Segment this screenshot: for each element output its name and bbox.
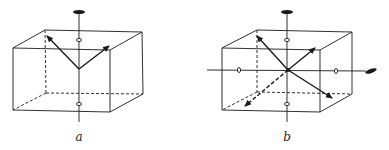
vertical-axis-b — [281, 10, 293, 122]
axis-oval-icon — [334, 69, 337, 74]
axis-oval-icon — [285, 102, 290, 105]
axis-oval-icon — [77, 38, 82, 41]
panel-a — [13, 10, 143, 122]
axis-oval-icon — [77, 102, 82, 105]
cube-a — [13, 30, 143, 112]
axis-oval-icon — [237, 68, 240, 73]
symmetry-diagram: a — [0, 0, 389, 150]
twofold-lens-icon — [365, 67, 378, 75]
center-point — [286, 68, 290, 72]
panel-b — [207, 10, 377, 122]
arrow-icon — [47, 36, 79, 69]
arrow-icon — [288, 48, 315, 70]
panel-label-b: b — [283, 130, 291, 144]
twofold-lens-icon — [73, 10, 85, 14]
twofold-lens-icon — [281, 10, 293, 14]
arrow-icon — [288, 70, 332, 98]
arrow-icon — [245, 70, 288, 106]
arrow-icon — [257, 36, 288, 70]
panel-label-a: a — [75, 130, 82, 144]
axis-oval-icon — [285, 38, 290, 41]
